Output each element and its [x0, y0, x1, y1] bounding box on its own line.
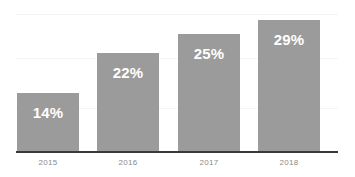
x-tick-label-2017: 2017 [178, 158, 240, 167]
x-tick-label-2016: 2016 [97, 158, 159, 167]
bar-2017[interactable]: 25% [178, 34, 240, 153]
x-tick-label-2018: 2018 [258, 158, 320, 167]
bar-2018[interactable]: 29% [258, 20, 320, 153]
bar-value-label-2017: 25% [178, 46, 240, 61]
bar-value-label-2015: 14% [17, 105, 79, 120]
bars-layer: 14% 22% 25% 29% [16, 8, 338, 153]
bar-value-label-2018: 29% [258, 32, 320, 47]
bar-chart: 14% 22% 25% 29% 2015 2016 2017 2018 [0, 0, 355, 177]
bar-2015[interactable]: 14% [17, 93, 79, 153]
bar-value-label-2016: 22% [97, 65, 159, 80]
x-axis-labels: 2015 2016 2017 2018 [16, 158, 338, 174]
x-tick-label-2015: 2015 [17, 158, 79, 167]
plot-area: 14% 22% 25% 29% [16, 8, 338, 153]
x-axis-line [16, 151, 338, 153]
bar-2016[interactable]: 22% [97, 53, 159, 153]
